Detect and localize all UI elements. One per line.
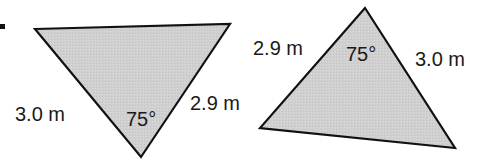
triangle-2-side-left-label: 2.9 m <box>253 37 303 59</box>
triangle-2-angle-label: 75° <box>346 43 376 65</box>
bullet-marker-icon <box>0 24 5 29</box>
triangle-1: 3.0 m 75° 2.9 m <box>15 24 240 157</box>
triangle-1-side-left-label: 3.0 m <box>15 103 65 125</box>
triangle-2-shape <box>260 8 455 148</box>
triangle-2-side-right-label: 3.0 m <box>415 48 465 70</box>
triangle-diagram: 3.0 m 75° 2.9 m 2.9 m 75° 3.0 m <box>0 0 479 168</box>
triangle-1-angle-label: 75° <box>126 108 156 130</box>
triangle-1-side-right-label: 2.9 m <box>190 92 240 114</box>
diagram-svg: 3.0 m 75° 2.9 m 2.9 m 75° 3.0 m <box>0 0 479 168</box>
triangle-2: 2.9 m 75° 3.0 m <box>253 8 465 148</box>
triangle-1-shape <box>35 24 230 157</box>
